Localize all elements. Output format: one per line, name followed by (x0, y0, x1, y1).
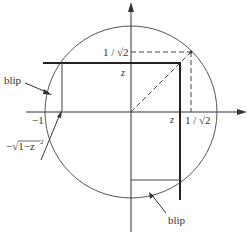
label-z-y: z (120, 67, 125, 78)
label-inv-sqrt2-y: 1 / √2 (103, 46, 129, 58)
dashed-diagonal (131, 52, 191, 112)
diagram-canvas: 1 / √2 z z 1 / √2 −1 −√1−z 2 blip blip (0, 0, 248, 235)
sqrt-pointer (41, 114, 60, 160)
label-neg-sqrt-exponent: 2 (40, 138, 44, 146)
label-z-x: z (169, 114, 174, 125)
blip-bottom-pointer (151, 194, 166, 213)
sqrt-pointer-arrow-icon (57, 110, 62, 118)
label-inv-sqrt2-x: 1 / √2 (185, 114, 211, 126)
blip-bottom-arrow-icon (149, 192, 154, 199)
label-blip-bottom: blip (168, 214, 186, 226)
y-axis-arrow-icon (128, 2, 134, 12)
label-neg-sqrt: −√1−z (6, 140, 35, 152)
point-on-circle (190, 51, 193, 54)
x-axis-arrow-icon (237, 109, 247, 115)
label-minus-one: −1 (32, 114, 44, 126)
label-blip-left: blip (4, 74, 22, 86)
